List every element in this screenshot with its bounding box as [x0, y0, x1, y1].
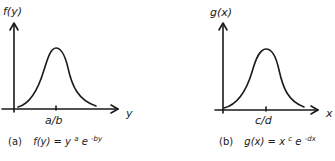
y-axis-label-b: g(x): [210, 6, 232, 19]
y-axis-label-a: f(y): [3, 5, 22, 18]
panel-b: g(x) x c/d (b) g(x) = x c e -dx: [210, 6, 333, 147]
caption-tag-a: (a): [8, 136, 22, 147]
caption-base2-b: e: [295, 136, 301, 147]
peak-label-b: c/d: [255, 114, 273, 127]
caption-b: (b) g(x) = x c e -dx: [219, 132, 317, 147]
caption-func-b: g(x): [244, 136, 264, 147]
x-axis-label-a: y: [125, 107, 133, 120]
caption-eq-a: = y: [54, 136, 73, 147]
density-curve-a: [18, 48, 96, 107]
caption-exp2-a: -by: [91, 135, 103, 143]
caption-eq-b: = x: [268, 136, 286, 147]
caption-base2-a: e: [82, 136, 88, 147]
caption-func-a: f(y): [33, 136, 50, 147]
caption-exp1-a: a: [74, 135, 78, 143]
caption-tag-b: (b): [219, 136, 233, 147]
panel-a: f(y) y a/b (a) f(y) = y a e -by: [2, 5, 133, 147]
caption-exp1-b: c: [288, 135, 292, 143]
caption-a: (a) f(y) = y a e -by: [8, 132, 103, 147]
caption-exp2-b: -dx: [305, 135, 317, 143]
peak-label-a: a/b: [45, 114, 62, 127]
density-curve-b: [224, 49, 304, 108]
x-axis-label-b: x: [325, 107, 333, 120]
figure-canvas: f(y) y a/b (a) f(y) = y a e -by g(x) x c…: [0, 0, 335, 161]
